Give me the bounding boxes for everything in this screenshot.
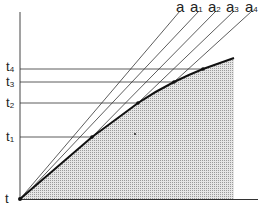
top-label-a: a — [176, 0, 185, 15]
point-t2 — [136, 101, 140, 105]
top-label-a4: a4 — [245, 0, 258, 15]
shaded-region — [20, 58, 234, 199]
point-t3 — [172, 80, 176, 84]
top-label-a3: a3 — [226, 0, 239, 15]
y-label-t2: t2 — [6, 95, 15, 110]
y-label-t1: t1 — [6, 129, 15, 144]
point-origin — [18, 197, 22, 201]
y-label-t3: t3 — [6, 74, 15, 89]
stray-dot — [134, 133, 136, 135]
point-t4 — [201, 67, 205, 71]
point-t1 — [90, 135, 94, 139]
y-label-t4: t4 — [6, 59, 15, 74]
top-label-a1: a1 — [190, 0, 203, 15]
ageing-diagram: t t1 t2 t3 t4 a a1 a2 a3 a4 — [0, 0, 263, 207]
top-label-a2: a2 — [208, 0, 221, 15]
y-label-origin: t — [5, 191, 9, 206]
